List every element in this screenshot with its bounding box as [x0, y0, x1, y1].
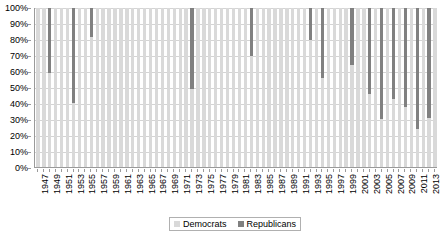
y-axis-tick-label: 20%	[10, 132, 28, 141]
bar-column	[309, 8, 312, 167]
bar-segment-democrats	[392, 99, 395, 167]
x-axis-tick-label: 1975	[207, 174, 216, 194]
bar-column	[433, 8, 436, 167]
y-axis-tick-mark	[28, 168, 31, 169]
bar-segment-republicans	[404, 8, 407, 107]
x-axis-tick-mark	[375, 169, 376, 172]
bar-segment-democrats	[220, 8, 223, 167]
bar-segment-democrats	[78, 8, 81, 167]
bar-segment-democrats	[107, 8, 110, 167]
bar-column	[226, 8, 229, 167]
x-axis-tick-mark	[132, 169, 133, 172]
bar-segment-republicans	[392, 8, 395, 99]
x-axis-tick-label: 1999	[349, 174, 358, 194]
bar-segment-republicans	[190, 8, 193, 89]
bar-segment-democrats	[309, 40, 312, 167]
x-axis-tick-label: 1985	[266, 174, 275, 194]
x-axis-tick-label: 1969	[171, 174, 180, 194]
bar-segment-democrats	[184, 8, 187, 167]
bar-segment-democrats	[256, 8, 259, 167]
bar-segment-democrats	[398, 8, 401, 167]
x-axis-tick-label: 2011	[420, 174, 429, 193]
x-axis-tick-label: 1987	[278, 174, 287, 194]
x-axis-tick-mark	[398, 169, 399, 172]
bar-column	[72, 8, 75, 167]
x-axis-tick-label: 1981	[242, 174, 251, 194]
x-axis-tick-label: 1955	[88, 174, 97, 194]
bar-segment-democrats	[273, 8, 276, 167]
x-axis-tick-mark	[221, 169, 222, 172]
bar-segment-democrats	[143, 8, 146, 167]
x-axis-tick-mark	[126, 169, 127, 172]
y-axis-tick-mark	[28, 104, 31, 105]
bar-segment-republicans	[48, 8, 51, 73]
x-axis-tick-mark	[144, 169, 145, 172]
y-axis-tick-label: 50%	[10, 84, 28, 93]
x-axis-tick-mark	[209, 169, 210, 172]
plot-area	[34, 8, 437, 168]
legend-label: Democrats	[183, 220, 227, 229]
x-axis-tick-mark	[49, 169, 50, 172]
x-axis-tick-label: 2001	[361, 174, 370, 194]
bar-segment-democrats	[297, 8, 300, 167]
x-axis-tick-mark	[155, 169, 156, 172]
x-axis-tick-mark	[268, 169, 269, 172]
bar-segment-democrats	[84, 8, 87, 167]
bar-segment-republicans	[350, 8, 353, 65]
bar-segment-democrats	[356, 8, 359, 167]
x-axis-tick-mark	[369, 169, 370, 172]
x-axis-tick-mark	[102, 169, 103, 172]
bar-segment-democrats	[208, 8, 211, 167]
y-axis-tick-mark	[28, 136, 31, 137]
x-axis-tick-mark	[191, 169, 192, 172]
x-axis-tick-mark	[167, 169, 168, 172]
x-axis-tick-mark	[43, 169, 44, 172]
bar-segment-democrats	[125, 8, 128, 167]
bar-segment-democrats	[131, 8, 134, 167]
bar-segment-republicans	[427, 8, 430, 118]
x-axis-tick-mark	[120, 169, 121, 172]
bar-segment-democrats	[315, 8, 318, 167]
x-axis-tick-mark	[434, 169, 435, 172]
bar-column	[427, 8, 430, 167]
bar-segment-democrats	[42, 8, 45, 167]
x-axis-tick-mark	[108, 169, 109, 172]
bar-segment-democrats	[244, 8, 247, 167]
bar-column	[380, 8, 383, 167]
y-axis-tick-mark	[28, 40, 31, 41]
x-axis-tick-mark	[173, 169, 174, 172]
bar-column	[267, 8, 270, 167]
x-axis-tick-mark	[416, 169, 417, 172]
bar-segment-democrats	[422, 8, 425, 167]
x-axis-tick-label: 2013	[432, 174, 441, 194]
bar-column	[54, 8, 57, 167]
bar-segment-democrats	[262, 8, 265, 167]
bar-segment-democrats	[333, 8, 336, 167]
bar-segment-democrats	[416, 129, 419, 167]
bar-segment-democrats	[404, 107, 407, 167]
y-axis-tick-label: 100%	[5, 4, 28, 13]
x-axis-tick-mark	[114, 169, 115, 172]
bar-column	[90, 8, 93, 167]
bar-column	[422, 8, 425, 167]
legend-entry[interactable]: Democrats	[174, 220, 227, 229]
bar-segment-democrats	[362, 8, 365, 167]
x-axis-tick-mark	[292, 169, 293, 172]
y-axis-tick-label: 90%	[10, 20, 28, 29]
bar-segment-democrats	[101, 8, 104, 167]
bar-segment-democrats	[321, 78, 324, 167]
x-axis-tick-mark	[357, 169, 358, 172]
x-axis-tick-label: 1961	[124, 174, 133, 194]
bar-segment-republicans	[380, 8, 383, 119]
bar-segment-democrats	[386, 8, 389, 167]
bar-column	[66, 8, 69, 167]
bar-column	[96, 8, 99, 167]
bar-segment-democrats	[226, 8, 229, 167]
bar-segment-democrats	[202, 8, 205, 167]
legend-entry[interactable]: Republicans	[238, 220, 297, 229]
bar-column	[179, 8, 182, 167]
x-axis-tick-label: 1995	[325, 174, 334, 194]
x-axis-tick-mark	[381, 169, 382, 172]
bar-segment-democrats	[250, 56, 253, 167]
x-axis-tick-mark	[55, 169, 56, 172]
